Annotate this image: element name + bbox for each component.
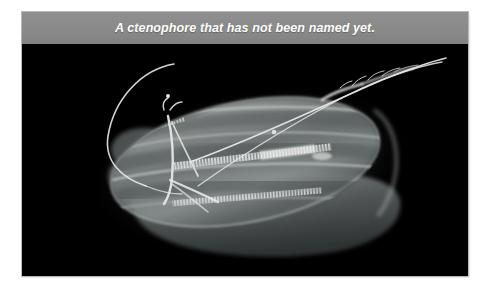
tentacle-node-bead [272,130,276,134]
specular-highlight-mid [312,152,332,160]
tentacle-tip-bead [166,94,170,98]
ctenophore-photograph: A ctenophore that has not been named yet… [22,44,468,276]
figure-caption-bar: A ctenophore that has not been named yet… [22,12,468,44]
figure-photo-area: A ctenophore that has not been named yet… [22,44,468,276]
figure-panel: A ctenophore that has not been named yet… [22,12,468,276]
figure-caption-text: A ctenophore that has not been named yet… [115,21,375,35]
